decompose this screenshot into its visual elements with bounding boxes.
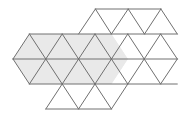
lattice-lines-group bbox=[13, 9, 177, 109]
grid-line-diagonal-r3-down3 bbox=[111, 84, 127, 109]
grid-line-diagonal-r1-down5 bbox=[144, 34, 160, 59]
grid-line-diagonal-r3-up1 bbox=[62, 84, 78, 109]
grid-line-diagonal-r3-up2 bbox=[95, 84, 111, 109]
grid-line-diagonal-r0-b1 bbox=[95, 9, 111, 34]
grid-line-diagonal-r3-down1 bbox=[46, 84, 62, 109]
triangular-lattice-figure bbox=[0, 0, 190, 119]
figure-root bbox=[0, 0, 190, 119]
grid-line-diagonal-r3-down2 bbox=[79, 84, 95, 109]
grid-line-diagonal-r2-down9 bbox=[144, 59, 160, 84]
grid-line-diagonal-r2-down8 bbox=[128, 59, 144, 84]
grid-line-diagonal-r2-down10 bbox=[161, 59, 178, 84]
grid-line-diagonal-r1-up4 bbox=[128, 34, 144, 59]
grid-line-diagonal-r0-a3 bbox=[145, 9, 161, 34]
grid-line-diagonal-r0-a1 bbox=[79, 9, 96, 34]
grid-line-diagonal-r0-b2 bbox=[128, 9, 144, 34]
grid-line-diagonal-r0-a2 bbox=[111, 9, 128, 34]
grid-line-diagonal-r0-b3 bbox=[161, 9, 177, 34]
grid-line-diagonal-r1-up5 bbox=[161, 34, 178, 59]
